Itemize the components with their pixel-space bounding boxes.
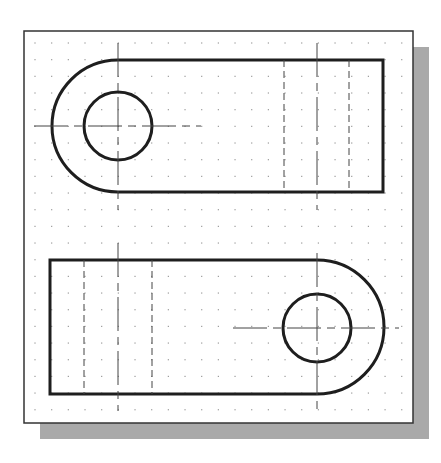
drawing-frame (24, 31, 413, 423)
drawing-canvas (0, 0, 441, 463)
